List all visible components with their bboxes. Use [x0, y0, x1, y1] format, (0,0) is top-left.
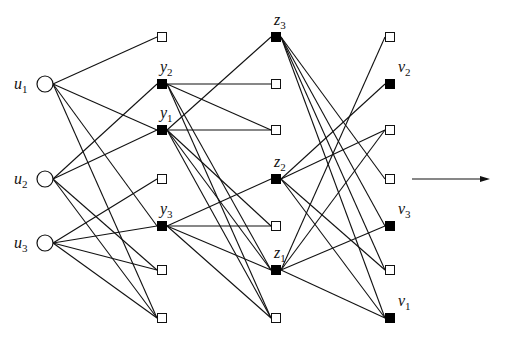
- node-y2: [158, 80, 167, 89]
- label-z3: z3: [273, 11, 286, 31]
- edge-u1-a1: [53, 37, 157, 84]
- node-y3: [158, 222, 167, 231]
- edge-y2-b7: [167, 84, 271, 318]
- node-c3: [386, 126, 395, 135]
- node-b3: [272, 126, 281, 135]
- edge-u3-a4: [53, 179, 157, 243]
- label-v1: v1: [398, 292, 411, 312]
- label-y2: y2: [158, 58, 173, 78]
- edge-y2-b3: [167, 84, 271, 130]
- label-v3: v3: [398, 200, 411, 220]
- node-b7: [272, 314, 281, 323]
- layered-graph-diagram: u1u2u3y2y1y3z3z2z1v2v3v1: [0, 0, 505, 341]
- node-a4: [158, 175, 167, 184]
- node-b2: [272, 80, 281, 89]
- edge-u2-y1: [53, 130, 157, 179]
- node-z2: [272, 175, 281, 184]
- edge-u1-a7: [53, 84, 157, 318]
- label-z2: z2: [273, 153, 286, 173]
- edge-u2-y2: [53, 84, 157, 179]
- label-y3: y3: [158, 200, 173, 220]
- node-a6: [158, 266, 167, 275]
- edge-y1-b5: [167, 130, 271, 226]
- edge-u1-y1: [53, 84, 157, 130]
- label-y1: y1: [158, 104, 173, 124]
- node-b5: [272, 222, 281, 231]
- node-a7: [158, 314, 167, 323]
- node-c4: [386, 175, 395, 184]
- edge-z3-c4: [281, 37, 385, 179]
- right-arrow-icon: [412, 176, 490, 182]
- node-v1: [386, 314, 395, 323]
- edge-z1-v3: [281, 226, 385, 270]
- edge-u3-a7: [53, 243, 157, 318]
- nodes-group: [37, 33, 395, 323]
- label-z1: z1: [273, 244, 286, 264]
- edge-y1-z1: [167, 130, 271, 270]
- edge-y1-b7: [167, 130, 271, 318]
- node-z1: [272, 266, 281, 275]
- node-c6: [386, 266, 395, 275]
- edge-y3-z1: [167, 226, 271, 270]
- edge-z2-v2: [281, 84, 385, 179]
- label-u3: u3: [14, 234, 28, 254]
- edge-u3-y3: [53, 226, 157, 243]
- node-c1: [386, 33, 395, 42]
- node-u3: [37, 235, 53, 251]
- edge-z2-c6: [281, 179, 385, 270]
- edge-y2-z1: [167, 84, 271, 270]
- edge-y3-b7: [167, 226, 271, 318]
- node-v3: [386, 222, 395, 231]
- node-u1: [37, 76, 53, 92]
- node-y1: [158, 126, 167, 135]
- label-u1: u1: [14, 75, 28, 95]
- node-v2: [386, 80, 395, 89]
- label-u2: u2: [14, 170, 28, 190]
- node-a1: [158, 33, 167, 42]
- label-v2: v2: [398, 58, 411, 78]
- edge-z3-v1: [281, 37, 385, 318]
- edges-group: [53, 37, 385, 318]
- node-z3: [272, 33, 281, 42]
- node-u2: [37, 171, 53, 187]
- edge-y3-z2: [167, 179, 271, 226]
